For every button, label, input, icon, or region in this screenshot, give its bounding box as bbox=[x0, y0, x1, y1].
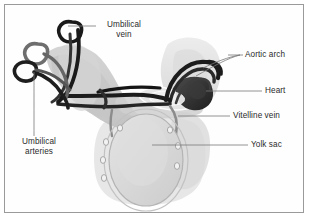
vessel-node bbox=[101, 175, 106, 182]
vessel-node bbox=[103, 139, 108, 146]
yolk-sac-inner-highlight bbox=[116, 118, 168, 186]
vessel-node bbox=[167, 127, 172, 133]
label-aortic-arch: Aortic arch bbox=[245, 50, 305, 60]
embryonic-circulation-figure: Umbilical vein Aortic arch Heart Vitelli… bbox=[0, 0, 309, 218]
vessel-node bbox=[117, 125, 122, 131]
diagram-artwork bbox=[0, 0, 309, 218]
vessel-node bbox=[100, 157, 105, 164]
label-vitelline-vein: Vitelline vein bbox=[233, 111, 305, 121]
label-yolk-sac: Yolk sac bbox=[251, 140, 305, 150]
label-heart: Heart bbox=[265, 86, 305, 96]
vessel-node bbox=[174, 163, 179, 170]
label-umbilical-vein: Umbilical vein bbox=[96, 20, 152, 39]
label-umbilical-arteries: Umbilical arteries bbox=[8, 137, 70, 156]
vessel-node bbox=[175, 143, 180, 150]
